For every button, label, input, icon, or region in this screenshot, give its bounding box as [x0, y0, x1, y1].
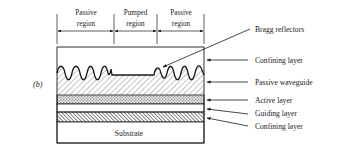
- label-active-layer: Active layer: [255, 96, 293, 105]
- substrate-label: Substrate: [115, 129, 144, 138]
- region-label-pumped-line1: Pumped: [124, 9, 148, 17]
- region-label-pumped-line2: region: [126, 20, 145, 28]
- guiding-layer: [57, 104, 204, 112]
- region-label-passive-right-line1: Passive: [170, 9, 192, 17]
- region-dimension-markers: [57, 14, 204, 44]
- label-bragg-reflectors: Bragg reflectors: [255, 25, 304, 34]
- arrow-guiding-layer: [207, 109, 248, 114]
- label-confining-layer-top: Confining layer: [255, 56, 303, 65]
- region-label-passive-left-line2: region: [77, 20, 96, 28]
- region-label-passive-left-line1: Passive: [75, 9, 97, 17]
- label-passive-waveguide: Passive waveguide: [255, 78, 313, 87]
- active-layer: [57, 95, 204, 104]
- panel-label: (b): [33, 80, 43, 89]
- region-label-passive-right-line2: region: [172, 20, 191, 28]
- label-guiding-layer: Guiding layer: [255, 109, 297, 118]
- label-confining-layer-bottom: Confining layer: [255, 122, 303, 131]
- laser-structure-diagram: (b) Passive region Pumped region Passive…: [0, 0, 342, 153]
- confining-layer-bottom: [57, 112, 204, 122]
- arrow-confining-layer-bottom: [207, 118, 248, 126]
